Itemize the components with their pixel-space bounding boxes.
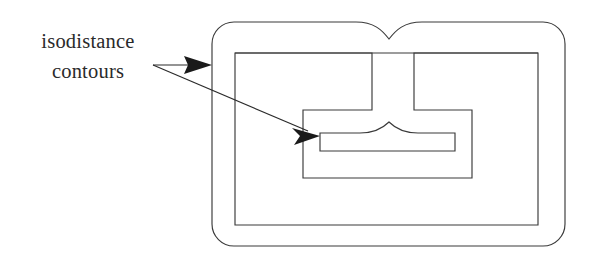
page-title: isodistance <box>41 30 134 52</box>
figure-container: isodistance contours <box>0 0 602 267</box>
isodistance-contours-figure: isodistance contours <box>0 0 602 267</box>
inner-bar-contour <box>320 122 455 151</box>
middle-notched-contour <box>235 53 538 178</box>
leader-line-inner <box>153 65 308 131</box>
leader-arrowhead-outer-icon <box>184 56 212 74</box>
outer-contour <box>212 22 565 246</box>
page-title-line2: contours <box>52 60 124 82</box>
middle-rectangle-contour <box>235 53 538 225</box>
